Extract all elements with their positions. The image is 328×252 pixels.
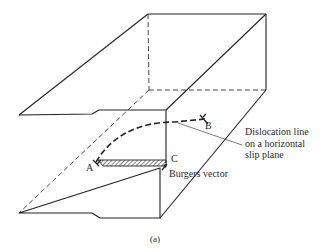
hidden-diagonal-edge [19, 90, 149, 213]
annotation-line-2: on a horizontal [245, 138, 309, 150]
hidden-back-left-edge [148, 14, 149, 90]
point-label-a: A [86, 162, 93, 173]
burgers-vector-label: Burgers vector [169, 168, 228, 180]
dislocation-line-annotation: Dislocation line on a horizontal slip pl… [245, 126, 309, 161]
dislocation-diagram: A B C Dislocation line on a horizontal s… [0, 0, 328, 252]
point-label-b: B [205, 120, 212, 131]
point-label-c: C [171, 153, 178, 164]
figure-caption: (a) [150, 234, 160, 244]
dislocation-line [96, 119, 205, 162]
top-right-edge [166, 14, 266, 110]
slip-region [98, 160, 166, 166]
top-left-edge [19, 14, 148, 115]
annotation-line-3: slip plane [245, 149, 309, 161]
annotation-line-1: Dislocation line [245, 126, 309, 138]
